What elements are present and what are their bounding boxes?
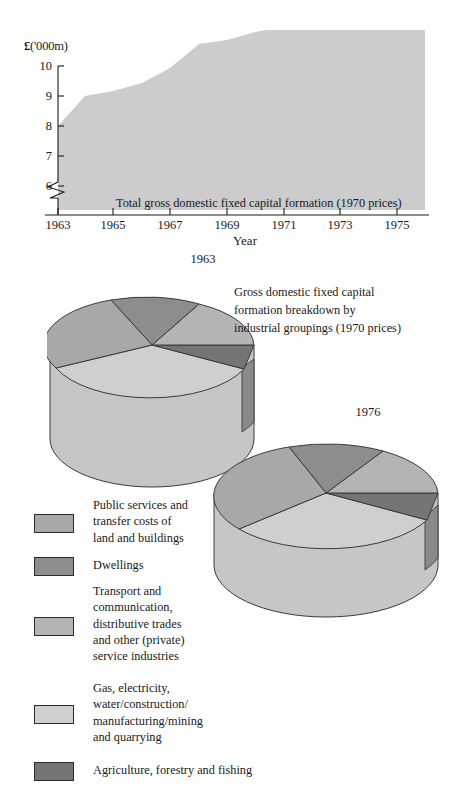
legend-swatch-dwellings <box>34 557 74 576</box>
pie-caption-line-2: formation breakdown by <box>234 301 449 319</box>
legend-label-public-services: Public services and transfer costs of la… <box>93 497 188 546</box>
pie-caption-line-3: industrial groupings (1970 prices) <box>234 319 449 337</box>
legend-line: transfer costs of <box>93 513 188 529</box>
figure-canvas: £('000m) 10 9 8 7 6 1963 1965 1967 1969 … <box>0 0 461 789</box>
legend-line: water/construction/ <box>93 696 203 712</box>
legend-line: land and buildings <box>93 530 188 546</box>
x-tick-label-1963: 1963 <box>38 218 78 233</box>
legend-line: Dwellings <box>93 557 144 573</box>
legend-line: Public services and <box>93 497 188 513</box>
legend-line: and other (private) <box>93 632 185 648</box>
pie-label-1976: 1976 <box>333 405 403 420</box>
legend-label-transport-communication: Transport and communication, distributiv… <box>93 583 185 665</box>
legend-line: manufacturing/mining <box>93 713 203 729</box>
legend-item-dwellings: Dwellings <box>34 557 144 576</box>
legend-swatch-agriculture <box>34 762 74 781</box>
y-tick-label-10: 10 <box>30 59 52 74</box>
x-tick-label-1965: 1965 <box>93 218 133 233</box>
x-tick-label-1969: 1969 <box>207 218 247 233</box>
y-tick-label-8: 8 <box>30 119 52 134</box>
legend-line: Transport and <box>93 583 185 599</box>
legend-line: communication, <box>93 599 185 615</box>
y-axis-caption: £('000m) <box>24 39 68 54</box>
x-axis-title: Year <box>205 233 285 249</box>
area-chart-annotation: Total gross domestic fixed capital forma… <box>116 196 402 211</box>
legend-item-gas-electricity-manufacturing: Gas, electricity, water/construction/ ma… <box>34 680 203 745</box>
area-series-fill <box>58 30 425 210</box>
legend-item-agriculture: Agriculture, forestry and fishing <box>34 762 252 781</box>
legend-swatch-public-services <box>34 514 74 533</box>
y-tick-label-9: 9 <box>30 89 52 104</box>
legend-item-public-services: Public services and transfer costs of la… <box>34 497 188 546</box>
y-tick-label-7: 7 <box>30 149 52 164</box>
legend-label-gas-electricity-manufacturing: Gas, electricity, water/construction/ ma… <box>93 680 203 745</box>
legend-swatch-gas-electricity-manufacturing <box>34 705 74 724</box>
legend-line: and quarrying <box>93 729 203 745</box>
x-tick-label-1975: 1975 <box>377 218 417 233</box>
area-chart: £('000m) 10 9 8 7 6 1963 1965 1967 1969 … <box>0 30 461 260</box>
legend-line: Agriculture, forestry and fishing <box>93 762 252 778</box>
legend-item-transport-communication: Transport and communication, distributiv… <box>34 583 185 665</box>
legend-line: service industries <box>93 648 185 664</box>
x-tick-label-1973: 1973 <box>320 218 360 233</box>
legend-swatch-transport-communication <box>34 617 74 636</box>
y-axis-units: ('000m) <box>30 39 68 53</box>
x-tick-label-1967: 1967 <box>150 218 190 233</box>
pie-caption-line-1: Gross domestic fixed capital <box>234 283 449 301</box>
legend-line: Gas, electricity, <box>93 680 203 696</box>
pie-chart-1976 <box>211 425 443 633</box>
legend-label-dwellings: Dwellings <box>93 557 144 573</box>
pie-label-1963: 1963 <box>168 252 238 267</box>
legend-line: distributive trades <box>93 616 185 632</box>
legend-label-agriculture: Agriculture, forestry and fishing <box>93 762 252 778</box>
y-tick-label-6: 6 <box>30 179 52 194</box>
cylinder-side-agriculture-1963 <box>242 359 254 432</box>
x-tick-label-1971: 1971 <box>264 218 304 233</box>
pie-caption: Gross domestic fixed capital formation b… <box>234 283 449 337</box>
